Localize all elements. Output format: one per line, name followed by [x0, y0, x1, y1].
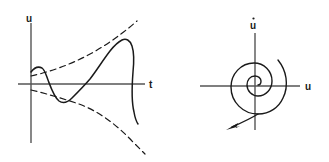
right-vertical-axis-label: u	[250, 20, 256, 31]
left-vertical-axis-label: u	[26, 13, 32, 24]
figure-background	[0, 0, 329, 162]
overdot-icon	[252, 17, 254, 19]
figure-canvas: u t u u	[0, 0, 329, 162]
right-horizontal-axis-label: u	[305, 81, 311, 92]
figure-root: u t u u	[0, 0, 329, 162]
